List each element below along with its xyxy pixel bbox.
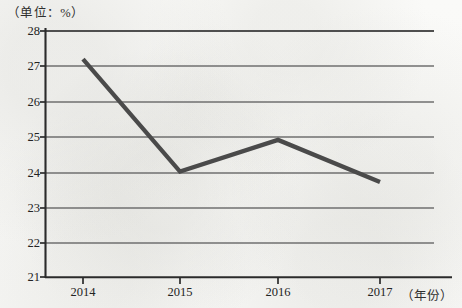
y-tick-label-26: 26 bbox=[14, 95, 40, 110]
y-tick-label-27: 27 bbox=[14, 59, 40, 74]
data-line-series bbox=[83, 59, 380, 182]
line-chart: （单位：%） 28 27 26 25 24 23 22 21 2014 2015… bbox=[0, 0, 462, 308]
chart-unit-title: （单位：%） bbox=[7, 2, 84, 21]
y-tick-label-24: 24 bbox=[14, 166, 40, 181]
chart-plot-area bbox=[0, 0, 462, 308]
y-axis-ticks bbox=[40, 31, 45, 277]
y-tick-label-28: 28 bbox=[14, 24, 40, 39]
x-tick-label-2014: 2014 bbox=[53, 285, 113, 300]
y-tick-label-22: 22 bbox=[14, 236, 40, 251]
y-tick-label-25: 25 bbox=[14, 130, 40, 145]
y-tick-label-23: 23 bbox=[14, 201, 40, 216]
x-tick-label-2015: 2015 bbox=[150, 285, 210, 300]
y-tick-label-21: 21 bbox=[14, 270, 40, 285]
x-axis-caption: （年份） bbox=[401, 285, 453, 304]
gridlines bbox=[45, 31, 434, 243]
x-tick-label-2016: 2016 bbox=[248, 285, 308, 300]
